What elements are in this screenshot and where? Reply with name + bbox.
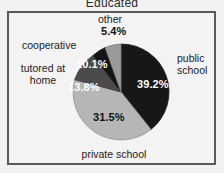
- slice-label-other: other: [88, 14, 132, 26]
- slice-label-public-school-line1: public: [177, 53, 207, 65]
- slice-label-cooperative: cooperative: [22, 40, 76, 52]
- slice-value-other: 5.4%: [101, 25, 126, 37]
- pie-chart-figure: Educated 39.2% 31.5% 13.8% 10.1% 5.4% ot…: [0, 0, 224, 173]
- slice-label-public-school: public school: [177, 53, 207, 76]
- slice-label-tutored-at-home: tutored at home: [12, 63, 74, 86]
- slice-value-cooperative: 10.1%: [76, 58, 108, 70]
- slice-label-private-school: private school: [64, 149, 164, 161]
- slice-label-tutored-at-home-line2: home: [12, 75, 74, 87]
- slice-value-public-school: 39.2%: [137, 78, 169, 90]
- slice-label-tutored-at-home-line1: tutored at: [12, 63, 74, 75]
- slice-label-public-school-line2: school: [177, 65, 207, 77]
- slice-value-private-school: 31.5%: [93, 111, 125, 123]
